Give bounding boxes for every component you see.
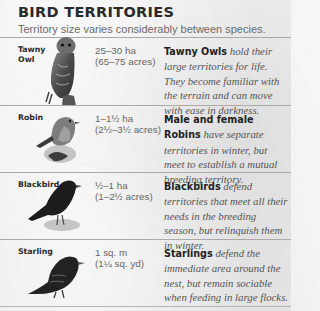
territory-size: 25–30 ha (65–75 acres) [95,45,155,67]
territory-size: 1 sq. m (1¼ sq. yd) [95,247,144,269]
robin-icon [34,110,84,166]
starling-icon [26,248,86,300]
header: BIRD TERRITORIES Territory size varies c… [18,4,287,36]
bird-description: Starlings defend the immediate area arou… [164,246,289,305]
size-imperial: (1¼ sq. yd) [95,258,144,269]
size-imperial: (1–2½ acres) [95,191,153,202]
size-imperial: (65–75 acres) [95,56,155,67]
owl-icon [44,36,86,106]
blackbird-icon [24,175,84,235]
desc-lead: Blackbirds [164,181,221,192]
page-title: BIRD TERRITORIES [18,4,287,21]
table-row-robin: Robin 1–1½ ha (2½–3½ acres) Male and fem… [0,105,291,172]
table-row-tawny-owl: Tawny Owl 25–30 ha (65–75 acres) Tawny O… [0,37,291,105]
table-row-starling: Starling 1 sq. m (1¼ sq. yd) Starlings d… [0,239,291,307]
territory-size: 1–1½ ha (2½–3½ acres) [95,113,161,135]
table-row-blackbird: Blackbird ½–1 ha (1–2½ acres) Blackbirds… [0,172,291,239]
desc-lead: Tawny Owls [164,46,227,57]
size-metric: 1 sq. m [95,247,144,258]
size-imperial: (2½–3½ acres) [95,124,161,135]
page-subtitle: Territory size varies considerably betwe… [18,22,287,36]
size-metric: 1–1½ ha [95,113,161,124]
size-metric: ½–1 ha [95,180,153,191]
territory-table: Tawny Owl 25–30 ha (65–75 acres) Tawny O… [0,37,291,307]
size-metric: 25–30 ha [95,45,155,56]
desc-lead: Starlings [164,248,213,259]
territory-size: ½–1 ha (1–2½ acres) [95,180,153,202]
